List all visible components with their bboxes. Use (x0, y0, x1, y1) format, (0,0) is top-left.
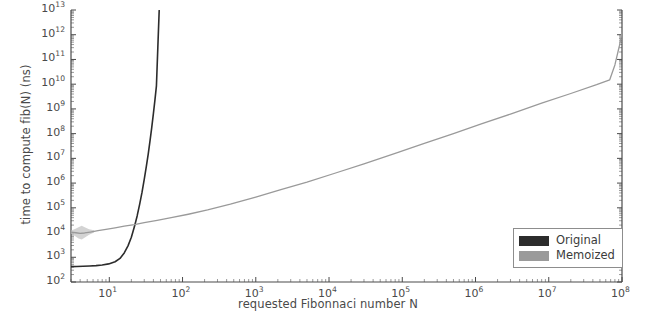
x-tick-label: 107 (538, 287, 557, 300)
y-tick-label: 106 (46, 175, 65, 188)
x-tick-label: 104 (318, 287, 337, 300)
log-log-plot (0, 0, 656, 319)
legend-swatch-memoized (519, 251, 549, 261)
legend-item-original: Original (519, 233, 615, 248)
x-tick-label: 108 (611, 287, 630, 300)
x-tick-label: 103 (245, 287, 264, 300)
x-tick-label: 101 (98, 287, 117, 300)
y-tick-label: 105 (46, 200, 65, 213)
y-tick-label: 108 (46, 126, 65, 139)
x-tick-label: 106 (465, 287, 484, 300)
legend-item-memoized: Memoized (519, 248, 615, 263)
y-axis-label: time to compute fib(N) (ns) (19, 65, 33, 225)
y-tick-label: 1013 (41, 2, 65, 15)
y-tick-label: 1011 (41, 51, 65, 64)
legend-label-original: Original (556, 235, 601, 247)
legend-label-memoized: Memoized (556, 250, 615, 262)
y-tick-label: 109 (46, 101, 65, 114)
y-tick-label: 107 (46, 150, 65, 163)
y-tick-label: 1012 (41, 27, 65, 40)
y-tick-label: 103 (46, 249, 65, 262)
y-tick-label: 102 (46, 274, 65, 287)
y-axis-label-wrapper: time to compute fib(N) (ns) (15, 35, 34, 255)
legend-swatch-original (519, 236, 549, 246)
series-line-memoized (71, 33, 622, 234)
x-tick-label: 102 (172, 287, 191, 300)
chart-legend: Original Memoized (513, 228, 623, 268)
y-tick-label: 1010 (41, 76, 65, 89)
figure-container: time to compute fib(N) (ns) requested Fi… (0, 0, 656, 319)
x-tick-label: 105 (391, 287, 410, 300)
y-tick-label: 104 (46, 225, 65, 238)
